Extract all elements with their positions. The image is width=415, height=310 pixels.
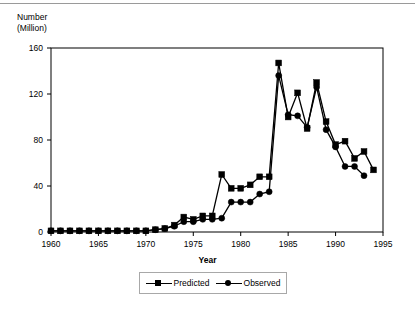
x-axis-ticks: 19601965197019751980198519901995 [42, 232, 393, 249]
data-point-observed [162, 226, 168, 232]
data-point-observed [114, 228, 120, 234]
data-point-observed [333, 144, 339, 150]
svg-text:120: 120 [29, 89, 43, 99]
data-point-observed [342, 163, 348, 169]
data-point-observed [171, 223, 177, 229]
legend-circle-marker-icon [216, 278, 242, 288]
svg-text:40: 40 [34, 181, 44, 191]
data-point-observed [86, 228, 92, 234]
data-point-observed [247, 199, 253, 205]
chart-legend: Predicted Observed [139, 272, 287, 294]
data-point-predicted [295, 90, 301, 96]
legend-label-observed: Observed [244, 278, 281, 288]
data-point-predicted [228, 185, 234, 191]
data-point-observed [228, 199, 234, 205]
data-point-predicted [352, 156, 358, 162]
data-point-observed [76, 228, 82, 234]
legend-square-marker-icon [146, 278, 172, 288]
svg-text:0: 0 [38, 227, 43, 237]
data-point-predicted [371, 167, 377, 173]
data-point-observed [323, 127, 329, 133]
data-point-observed [124, 228, 130, 234]
data-point-observed [95, 228, 101, 234]
svg-text:1960: 1960 [42, 239, 61, 249]
data-point-observed [181, 219, 187, 225]
svg-text:1990: 1990 [326, 239, 345, 249]
data-point-observed [266, 189, 272, 195]
legend-item-observed: Observed [216, 278, 281, 288]
data-point-observed [352, 163, 358, 169]
svg-text:1975: 1975 [184, 239, 203, 249]
data-point-observed [314, 84, 320, 90]
data-point-predicted [219, 172, 225, 178]
data-point-observed [238, 199, 244, 205]
data-point-observed [304, 124, 310, 130]
svg-text:1965: 1965 [89, 239, 108, 249]
data-point-predicted [238, 185, 244, 191]
svg-text:1970: 1970 [136, 239, 155, 249]
legend-label-predicted: Predicted [174, 278, 210, 288]
data-point-observed [57, 228, 63, 234]
data-point-observed [105, 228, 111, 234]
data-point-observed [257, 191, 263, 197]
data-point-observed [361, 173, 367, 179]
data-point-observed [133, 228, 139, 234]
data-point-observed [190, 219, 196, 225]
svg-text:80: 80 [34, 135, 44, 145]
svg-text:1985: 1985 [279, 239, 298, 249]
y-axis-ticks: 04080120160 [29, 43, 51, 237]
data-point-observed [276, 73, 282, 79]
data-point-observed [152, 227, 158, 233]
legend-item-predicted: Predicted [146, 278, 210, 288]
data-point-predicted [257, 174, 263, 180]
data-point-observed [295, 113, 301, 119]
data-point-predicted [361, 149, 367, 155]
data-point-observed [285, 112, 291, 118]
data-point-observed [200, 216, 206, 222]
svg-text:1980: 1980 [231, 239, 250, 249]
data-point-observed [48, 228, 54, 234]
chart-figure: Number(Million) 04080120160 196019651970… [0, 0, 415, 310]
data-point-predicted [276, 60, 282, 66]
data-point-observed [209, 216, 215, 222]
svg-text:160: 160 [29, 43, 43, 53]
svg-text:1995: 1995 [374, 239, 393, 249]
data-point-observed [143, 228, 149, 234]
x-axis-title: Year [0, 255, 415, 265]
data-point-observed [67, 228, 73, 234]
data-point-predicted [342, 138, 348, 144]
data-point-observed [219, 215, 225, 221]
data-point-predicted [247, 182, 253, 188]
